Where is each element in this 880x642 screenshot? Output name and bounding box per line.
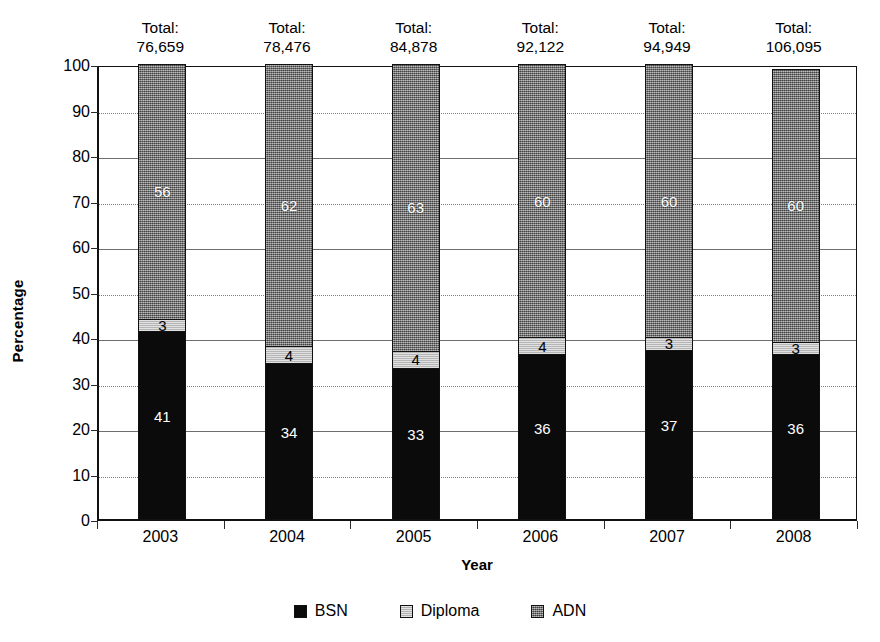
bar-segment-value: 34 <box>281 425 298 440</box>
stacked-bar[interactable]: 60337 <box>645 64 693 519</box>
bar-group[interactable]: 60337 <box>645 67 693 519</box>
y-axis-tick-mark <box>91 476 98 477</box>
legend-label: BSN <box>315 602 348 620</box>
x-axis-tick-label: 2004 <box>237 528 337 546</box>
bar-segment-value: 56 <box>154 184 171 199</box>
bar-segment-diploma[interactable]: 4 <box>518 337 566 355</box>
bar-segment-diploma[interactable]: 4 <box>392 351 440 369</box>
legend-swatch-bsn <box>294 605 307 618</box>
bar-group[interactable]: 62434 <box>265 67 313 519</box>
bar-segment-value: 33 <box>407 427 424 442</box>
x-axis-tick-mark <box>730 521 731 529</box>
bar-total-annotation: Total:78,476 <box>227 18 347 56</box>
bar-total-value: 78,476 <box>227 37 347 56</box>
bar-segment-value: 36 <box>534 421 551 436</box>
bar-segment-value: 36 <box>787 421 804 436</box>
legend-label: ADN <box>552 602 586 620</box>
bar-segment-diploma[interactable]: 3 <box>645 337 693 351</box>
bar-total-label: Total: <box>354 18 474 37</box>
x-axis-tick-label: 2003 <box>110 528 210 546</box>
bar-group[interactable]: 60436 <box>518 67 566 519</box>
bar-total-value: 92,122 <box>480 37 600 56</box>
x-axis-tick-mark <box>350 521 351 529</box>
bar-segment-bsn[interactable]: 34 <box>265 364 313 519</box>
bar-segment-value: 4 <box>285 348 293 363</box>
chart-legend: BSNDiplomaADN <box>0 602 880 620</box>
x-axis-tick-label: 2008 <box>744 528 844 546</box>
y-axis-tick-mark <box>91 385 98 386</box>
bar-segment-value: 3 <box>665 337 673 351</box>
bar-segment-bsn[interactable]: 33 <box>392 369 440 519</box>
x-axis-tick-labels: 200320042005200620072008 <box>0 528 880 554</box>
bars-container: 563416243463433604366033760336 <box>99 67 856 519</box>
bar-segment-adn[interactable]: 60 <box>772 69 820 342</box>
bar-segment-bsn[interactable]: 37 <box>645 351 693 519</box>
y-axis-tick-label: 40 <box>38 330 90 348</box>
legend-swatch-adn <box>531 605 544 618</box>
bar-segment-bsn[interactable]: 36 <box>772 355 820 519</box>
bar-total-label: Total: <box>607 18 727 37</box>
y-axis-tick-label: 100 <box>38 57 90 75</box>
y-axis-tick-label: 20 <box>38 421 90 439</box>
y-axis-tick-mark <box>91 66 98 67</box>
x-axis-tick-label: 2006 <box>490 528 590 546</box>
legend-swatch-diploma <box>400 605 413 618</box>
bar-total-label: Total: <box>227 18 347 37</box>
legend-item-diploma[interactable]: Diploma <box>400 602 480 620</box>
y-axis-tick-label: 30 <box>38 376 90 394</box>
x-axis-title: Year <box>97 556 857 573</box>
bar-segment-adn[interactable]: 63 <box>392 64 440 351</box>
bar-total-annotation: Total:94,949 <box>607 18 727 56</box>
bar-total-label: Total: <box>100 18 220 37</box>
bar-total-annotation: Total:76,659 <box>100 18 220 56</box>
x-axis-tick-mark <box>604 521 605 529</box>
x-axis-tick-mark <box>97 521 98 529</box>
bar-segment-value: 41 <box>154 409 171 424</box>
bar-total-value: 84,878 <box>354 37 474 56</box>
x-axis-tick-mark <box>477 521 478 529</box>
bar-segment-value: 3 <box>158 319 166 333</box>
bar-segment-value: 60 <box>661 194 678 209</box>
bar-segment-value: 37 <box>661 418 678 433</box>
y-axis-tick-label: 80 <box>38 148 90 166</box>
bar-segment-diploma[interactable]: 4 <box>265 346 313 364</box>
bar-group[interactable]: 56341 <box>138 67 186 519</box>
bar-segment-diploma[interactable]: 3 <box>138 319 186 333</box>
y-axis-tick-mark <box>91 112 98 113</box>
stacked-bar[interactable]: 60336 <box>772 69 820 519</box>
bar-group[interactable]: 63433 <box>392 67 440 519</box>
bar-segment-bsn[interactable]: 36 <box>518 355 566 519</box>
bar-total-value: 76,659 <box>100 37 220 56</box>
bar-total-annotation: Total:92,122 <box>480 18 600 56</box>
stacked-bar[interactable]: 63433 <box>392 64 440 519</box>
bar-segment-adn[interactable]: 62 <box>265 64 313 346</box>
bar-segment-adn[interactable]: 60 <box>518 64 566 337</box>
bar-segment-bsn[interactable]: 41 <box>138 332 186 519</box>
bar-segment-diploma[interactable]: 3 <box>772 342 820 356</box>
y-axis-tick-mark <box>91 294 98 295</box>
legend-item-adn[interactable]: ADN <box>531 602 586 620</box>
y-axis-tick-label: 50 <box>38 285 90 303</box>
bar-total-value: 106,095 <box>734 37 854 56</box>
bar-segment-value: 60 <box>534 194 551 209</box>
bar-segment-value: 62 <box>281 198 298 213</box>
y-axis-tick-mark <box>91 339 98 340</box>
bar-total-annotation: Total:84,878 <box>354 18 474 56</box>
stacked-bar[interactable]: 56341 <box>138 64 186 519</box>
y-axis-tick-label: 90 <box>38 103 90 121</box>
y-axis-tick-mark <box>91 248 98 249</box>
y-axis-tick-label: 70 <box>38 194 90 212</box>
y-axis-tick-mark <box>91 157 98 158</box>
x-axis-tick-label: 2005 <box>364 528 464 546</box>
y-axis-tick-label: 60 <box>38 239 90 257</box>
bar-group[interactable]: 60336 <box>772 67 820 519</box>
bar-segment-adn[interactable]: 60 <box>645 64 693 337</box>
stacked-bar[interactable]: 62434 <box>265 64 313 519</box>
x-axis-tick-mark <box>224 521 225 529</box>
legend-item-bsn[interactable]: BSN <box>294 602 348 620</box>
bar-segment-adn[interactable]: 56 <box>138 64 186 319</box>
y-axis-tick-mark <box>91 430 98 431</box>
stacked-bar[interactable]: 60436 <box>518 64 566 519</box>
x-axis-tick-mark <box>857 521 858 529</box>
x-axis-tick-label: 2007 <box>617 528 717 546</box>
